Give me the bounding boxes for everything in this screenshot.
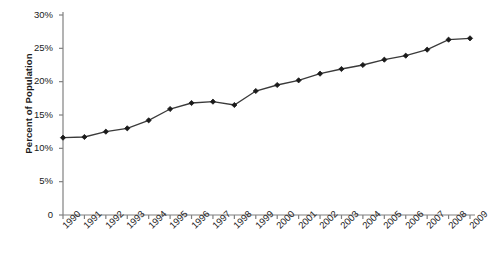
data-point-marker — [425, 47, 430, 52]
data-point-marker — [60, 135, 65, 140]
data-series-line — [63, 38, 470, 137]
data-point-marker — [125, 126, 130, 131]
y-axis-tick-label: 0 — [19, 209, 53, 220]
data-point-marker — [296, 78, 301, 83]
data-point-marker — [360, 62, 365, 67]
data-point-marker — [146, 118, 151, 123]
y-axis-tick-label: 25% — [19, 42, 53, 53]
data-point-marker — [382, 57, 387, 62]
data-point-marker — [210, 99, 215, 104]
y-axis-tick-label: 30% — [19, 9, 53, 20]
data-point-marker — [317, 71, 322, 76]
data-point-marker — [189, 100, 194, 105]
y-axis-tick-label: 20% — [19, 75, 53, 86]
data-point-marker — [446, 37, 451, 42]
y-axis-tick-label: 5% — [19, 175, 53, 186]
y-axis-tick-label: 10% — [19, 142, 53, 153]
y-axis-tick-label: 15% — [19, 109, 53, 120]
data-point-marker — [403, 53, 408, 58]
data-point-marker — [103, 129, 108, 134]
data-point-marker — [275, 82, 280, 87]
data-point-marker — [168, 106, 173, 111]
data-point-marker — [339, 66, 344, 71]
data-point-marker — [467, 36, 472, 41]
data-point-marker — [82, 134, 87, 139]
